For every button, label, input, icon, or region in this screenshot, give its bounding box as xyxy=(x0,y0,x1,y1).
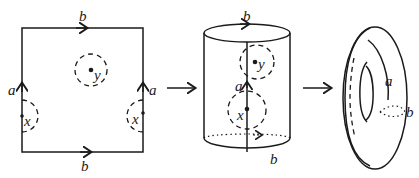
label-cylinder-point-y: y xyxy=(256,56,265,72)
label-point-y: y xyxy=(92,67,101,83)
torus-inner-rim xyxy=(368,40,388,100)
torus-hidden-edge xyxy=(350,58,355,138)
cylinder-panel: b b a y x xyxy=(204,8,290,167)
square-panel: b b a a y x x xyxy=(8,8,157,174)
label-right-a: a xyxy=(149,82,157,98)
cylinder-point-y xyxy=(253,60,258,65)
torus-hole-left xyxy=(360,62,367,122)
cylinder-point-x xyxy=(245,107,250,112)
torus-panel: a b xyxy=(343,27,414,169)
label-cylinder-top-b: b xyxy=(243,8,251,24)
torus-longitude-bottom xyxy=(380,112,405,117)
label-top-b: b xyxy=(79,8,87,24)
label-left-a: a xyxy=(8,82,16,98)
point-x-right xyxy=(141,111,145,115)
point-y xyxy=(89,68,94,73)
label-point-x-left: x xyxy=(23,113,31,129)
torus-outer-left xyxy=(345,28,370,166)
label-torus-a: a xyxy=(385,73,393,89)
label-cylinder-point-x: x xyxy=(236,107,244,123)
torus-construction-diagram: b b a a y x x b b a y xyxy=(0,0,419,178)
square-outline xyxy=(22,28,143,152)
cylinder-top-ellipse xyxy=(204,24,290,42)
label-bottom-b: b xyxy=(81,158,89,174)
label-point-x-right: x xyxy=(131,111,139,127)
label-torus-b: b xyxy=(406,104,414,120)
torus-longitude-top xyxy=(380,106,405,112)
torus-hole-right xyxy=(366,66,373,120)
label-cylinder-bottom-b: b xyxy=(270,151,278,167)
